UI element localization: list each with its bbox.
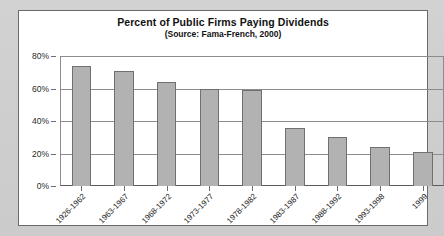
x-label-slot: 1926-1962 xyxy=(60,191,103,227)
x-tick-label: 1963-1967 xyxy=(97,192,130,225)
bar-series xyxy=(60,56,444,186)
bar xyxy=(328,137,348,186)
bar-slot xyxy=(145,56,188,186)
bar xyxy=(413,152,433,186)
y-tick-mark xyxy=(51,186,56,187)
bar xyxy=(370,147,390,186)
bar xyxy=(114,71,134,186)
x-label-slot: 1988-1992 xyxy=(316,191,359,227)
x-label-slot: 1968-1972 xyxy=(145,191,188,227)
x-label-slot: 1993-1998 xyxy=(359,191,402,227)
y-tick-mark xyxy=(51,154,56,155)
bar-slot xyxy=(231,56,274,186)
bar xyxy=(72,66,92,186)
y-tick-label: 20% xyxy=(32,149,49,159)
y-tick-mark xyxy=(51,89,56,90)
y-tick-label: 0% xyxy=(37,181,49,191)
chart-frame: Percent of Public Firms Paying Dividends… xyxy=(18,10,428,226)
x-label-slot: 1963-1967 xyxy=(103,191,146,227)
x-tick-label: 1978-1982 xyxy=(225,192,258,225)
bar xyxy=(200,89,220,187)
x-tick-label: 1993-1998 xyxy=(353,192,386,225)
bar-slot xyxy=(188,56,231,186)
chart-title-block: Percent of Public Firms Paying Dividends… xyxy=(19,16,427,40)
x-tick-label: 1973-1977 xyxy=(182,192,215,225)
x-label-slot: 1978-1982 xyxy=(231,191,274,227)
x-tick-label: 1968-1972 xyxy=(140,192,173,225)
x-label-slot: 1999 xyxy=(401,191,444,227)
y-tick-label: 60% xyxy=(32,84,49,94)
y-tick-label: 40% xyxy=(32,116,49,126)
bar xyxy=(285,128,305,187)
bar-slot xyxy=(60,56,103,186)
x-tick-label: 1983-1987 xyxy=(268,192,301,225)
bar xyxy=(242,90,262,186)
x-label-slot: 1983-1987 xyxy=(273,191,316,227)
chart-subtitle: (Source: Fama-French, 2000) xyxy=(19,29,427,40)
x-tick-label: 1926-1962 xyxy=(54,192,87,225)
bar-slot xyxy=(316,56,359,186)
x-axis: 1926-19621963-19671968-19721973-19771978… xyxy=(60,191,444,227)
page-title: Percent of Public Firms Paying Dividends xyxy=(19,16,427,29)
y-axis: 0%20%40%60%80% xyxy=(19,56,56,186)
y-tick-label: 80% xyxy=(32,51,49,61)
bar-slot xyxy=(273,56,316,186)
bar-slot xyxy=(401,56,444,186)
y-tick-mark xyxy=(51,56,56,57)
bar-slot xyxy=(103,56,146,186)
bar-slot xyxy=(359,56,402,186)
x-label-slot: 1973-1977 xyxy=(188,191,231,227)
bar xyxy=(157,82,177,186)
x-tick-label: 1988-1992 xyxy=(310,192,343,225)
y-tick-mark xyxy=(51,121,56,122)
x-tick-label: 1999 xyxy=(410,192,429,211)
